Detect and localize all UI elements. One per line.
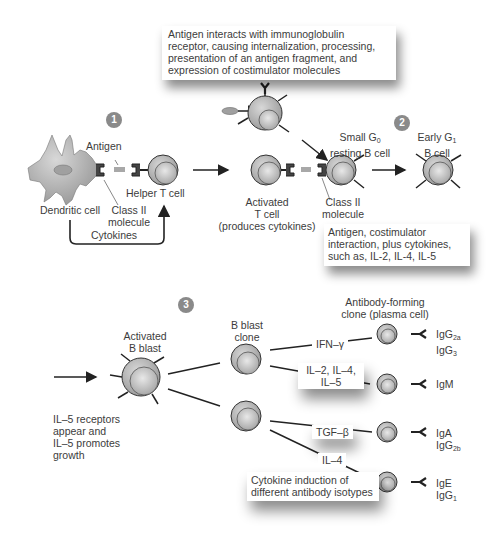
il5-note: IL–5 receptors appear and IL–5 promotes … <box>53 413 120 461</box>
class2-receptor-dendritic <box>96 164 104 176</box>
step-badge-1: 1 <box>106 112 122 128</box>
class2-label-1: Class II molecule <box>106 204 152 228</box>
tcr-receptor-1 <box>132 164 150 176</box>
antigen-pointer <box>115 160 118 165</box>
small-g0-line2: resting B cell <box>325 147 395 159</box>
b-blast-clone-upper <box>231 344 261 374</box>
isotype-sub: 3 <box>453 350 457 357</box>
early-g1-text: Early G <box>418 131 453 143</box>
isotype-text: IgA <box>436 427 461 439</box>
helper-t-cell <box>148 155 178 185</box>
class2-line1: Class II <box>318 196 368 208</box>
note-line: Antigen, costimulator <box>328 226 466 238</box>
small-g0-label: Small G0 resting B cell <box>325 131 395 159</box>
isotype-caption: Cytokine induction of different antibody… <box>247 472 379 501</box>
step-badge-3: 3 <box>178 297 194 313</box>
isotype-text: IgG <box>436 328 453 340</box>
antigen-internalizing-b-cell <box>222 83 289 132</box>
isotype-text: IgM <box>436 378 454 390</box>
dendritic-cell-label: Dendritic cell <box>40 204 100 216</box>
isotype-text: IgG <box>436 489 453 501</box>
note-line: interaction, plus cytokines, <box>328 238 466 250</box>
caption-line1: Cytokine induction of <box>251 474 375 486</box>
class2-label-2: Class II molecule <box>318 196 368 220</box>
isotype-text: IgG <box>436 344 453 356</box>
note-line: Antigen interacts with immunoglobulin <box>168 28 390 40</box>
class2-line2: molecule <box>106 216 152 228</box>
branch-upper <box>168 363 220 374</box>
caption-line2: different antibody isotypes <box>251 486 375 498</box>
early-g1-b-cell <box>416 154 461 188</box>
il5-line: growth <box>53 449 120 461</box>
il245-line2: IL–5 <box>302 376 360 388</box>
plasma-cell-1 <box>377 324 397 344</box>
antibody-icon-4 <box>411 478 426 486</box>
antigen-fragment <box>114 167 125 172</box>
early-g1-label: Early G1 B cell <box>412 131 462 159</box>
plasma-cell-2 <box>377 374 397 394</box>
b-blast-clone-lower <box>231 401 261 431</box>
cytokine-ifn-gamma: IFN–γ <box>312 337 348 351</box>
afc-line1: Antibody-forming <box>330 296 440 308</box>
helper-t-cell-label: Helper T cell <box>126 187 185 199</box>
early-g1-line2: B cell <box>412 147 462 159</box>
isotype-text: IgE <box>436 477 457 489</box>
isotype-sub: 2a <box>453 334 461 341</box>
isotype-label-1: IgG2a IgG3 <box>436 328 461 360</box>
il5-line: IL–5 receptors <box>53 413 120 425</box>
afc-line2: clone (plasma cell) <box>330 308 440 320</box>
activated-b-line2: B blast <box>115 342 175 354</box>
note-line: receptor, causing internalization, proce… <box>168 40 390 52</box>
antibody-icon-3 <box>411 428 426 436</box>
cytokine-tgf-beta: TGF–β <box>312 425 353 439</box>
antigen-fragment-2 <box>301 167 311 172</box>
il245-line1: IL–2, IL–4, <box>302 364 360 376</box>
small-g0-text: Small G <box>339 131 376 143</box>
branch-lower <box>168 389 220 406</box>
il5-line: IL–5 promotes <box>53 437 120 449</box>
isotype-label-2: IgM <box>436 378 454 390</box>
note-line: such as, IL-2, IL-4, IL-5 <box>328 250 466 262</box>
cytokines-label: Cytokines <box>91 229 137 241</box>
antibody-forming-clone-label: Antibody-forming clone (plasma cell) <box>330 296 440 320</box>
costimulator-note: Antigen, costimulator interaction, plus … <box>324 224 470 266</box>
note-line: expression of costimulator molecules <box>168 64 390 76</box>
plasma-cell-3 <box>377 422 397 442</box>
activated-t-cell-label: Activated T cell (produces cytokines) <box>217 196 317 232</box>
antibody-icon-1 <box>411 330 426 338</box>
activated-b-blast <box>110 354 164 404</box>
isotype-sub: 2b <box>453 445 461 452</box>
cytokine-il2-il4-il5: IL–2, IL–4, IL–5 <box>298 363 364 389</box>
b-blast-clone-line2: clone <box>222 331 272 343</box>
b-blast-clone-line1: B blast <box>222 319 272 331</box>
arrow-to-resting-b-cell <box>302 140 327 160</box>
activated-t-line3: (produces cytokines) <box>217 220 317 232</box>
small-g0-sub: 0 <box>377 137 381 144</box>
isotype-text: IgG <box>436 439 453 451</box>
small-g0-resting-b-cell <box>318 155 364 188</box>
class2-line2: molecule <box>318 208 368 220</box>
isotype-label-4: IgE IgG1 <box>436 477 457 505</box>
isotype-sub: 1 <box>453 495 457 502</box>
il5-line: appear and <box>53 425 120 437</box>
activated-t-line1: Activated <box>217 196 317 208</box>
early-g1-sub: 1 <box>453 137 457 144</box>
class2-line1: Class II <box>106 204 152 216</box>
step-badge-2: 2 <box>394 115 410 131</box>
activated-t-cell <box>251 155 294 185</box>
activated-t-line2: T cell <box>217 208 317 220</box>
antibody-icon-2 <box>411 380 426 388</box>
antigen-label: Antigen <box>86 140 122 152</box>
activated-b-line1: Activated <box>115 330 175 342</box>
isotype-label-3: IgA IgG2b <box>436 427 461 455</box>
note-line: presentation of an antigen fragment, and <box>168 52 390 64</box>
activated-b-blast-label: Activated B blast <box>115 330 175 354</box>
class2-pointer <box>104 180 118 205</box>
b-blast-clone-label: B blast clone <box>222 319 272 343</box>
plasma-cell-4 <box>377 472 397 492</box>
antigen-interaction-note: Antigen interacts with immunoglobulin re… <box>162 26 396 80</box>
cytokine-il4: IL–4 <box>318 453 346 467</box>
